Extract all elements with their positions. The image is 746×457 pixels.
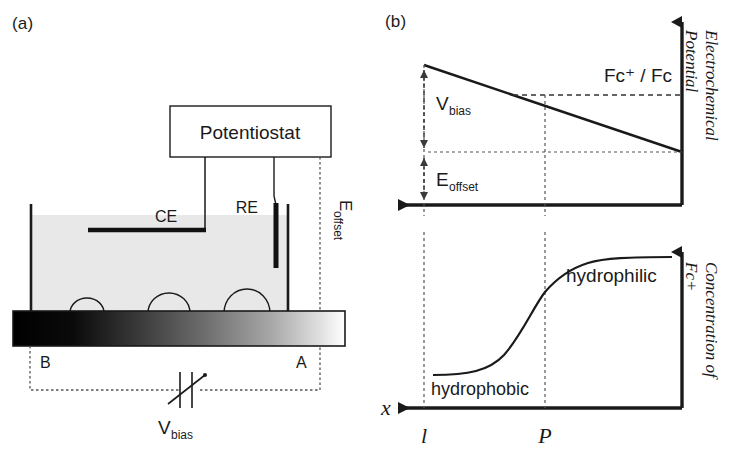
chart-fc-concentration: hydrophobic hydrophilic x l P Concentrat…	[380, 232, 721, 448]
droplet-1	[70, 298, 104, 313]
bias-label-group: V bias	[158, 417, 193, 442]
reference-electrode-label: RE	[236, 199, 258, 216]
bias-label-main: V	[158, 417, 171, 438]
top-chart-eoffset-label-sub: offset	[449, 180, 479, 194]
top-chart-y-axis-title: Electrochemical Potential	[682, 29, 721, 141]
figure-canvas: Potentiostat CE RE E offset	[0, 0, 746, 457]
hydrophobic-region-label: hydrophobic	[431, 379, 529, 399]
substrate-gradient-bar	[13, 311, 345, 346]
wire-reference-electrode	[274, 157, 276, 205]
panel-a-label: (a)	[12, 14, 33, 34]
droplet-3	[224, 289, 270, 313]
top-chart-vbias-label-main: V	[436, 93, 449, 114]
droplet-2	[148, 293, 190, 313]
bias-label-sub: bias	[171, 428, 193, 442]
electrolyte-solution-region	[30, 215, 288, 313]
top-chart-y-axis-title-line1: Electrochemical	[702, 29, 721, 141]
substrate-end-right-label: A	[296, 354, 307, 371]
variable-voltage-source-icon	[168, 372, 207, 408]
wire-counter-electrode	[128, 157, 205, 230]
counter-electrode-label: CE	[155, 208, 177, 225]
chart-electrochemical-potential: V bias E offset Fc⁺ / Fc Electrochemical…	[398, 22, 721, 216]
substrate-end-left-label: B	[40, 354, 51, 371]
bottom-chart-y-axis-title: Concentration of Fc+	[682, 261, 721, 380]
bottom-chart-x-axis-label: x	[380, 395, 391, 420]
potentiostat-label: Potentiostat	[200, 122, 301, 143]
top-chart-vbias-label-sub: bias	[449, 104, 471, 118]
panel-b-label: (b)	[385, 12, 406, 32]
bias-circuit-loop	[30, 346, 320, 390]
top-chart-vbias-label-group: V bias	[436, 93, 471, 118]
bottom-chart-y-axis-title-line1: Concentration of	[702, 262, 721, 380]
figure-root: (a) (b)	[0, 0, 746, 457]
top-chart-y-axis-title-line2: Potential	[682, 29, 701, 93]
tick-label-l: l	[421, 423, 427, 448]
offset-label-group: E offset	[331, 200, 355, 241]
offset-label-sub: offset	[331, 211, 345, 241]
top-chart-eoffset-label-main: E	[436, 169, 449, 190]
potential-profile-line	[424, 65, 682, 152]
bottom-chart-y-axis-title-line2: Fc+	[682, 261, 701, 291]
hydrophilic-region-label: hydrophilic	[566, 265, 657, 286]
fc-concentration-curve	[433, 257, 672, 375]
panel-a-diagram: Potentiostat CE RE E offset	[13, 106, 355, 442]
top-chart-eoffset-label-group: E offset	[436, 169, 479, 194]
potentiostat-box[interactable]	[170, 106, 331, 157]
tick-label-p: P	[537, 423, 551, 448]
redox-couple-label: Fc⁺ / Fc	[604, 65, 672, 86]
offset-label-main: E	[336, 200, 355, 211]
